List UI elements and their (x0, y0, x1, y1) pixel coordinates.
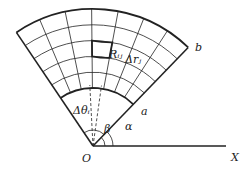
inner-radius-label: a (141, 105, 148, 118)
grid-ring (52, 72, 145, 93)
delta-theta-label: Δθᵢ (72, 104, 90, 117)
dashed-ray (90, 85, 93, 146)
outer-radius-label: b (195, 41, 202, 54)
x-axis-label: X (230, 151, 240, 164)
alpha-label: α (125, 120, 133, 133)
beta-label: β (103, 123, 110, 136)
polar-grid (16, 9, 226, 146)
dashed-ray (93, 86, 101, 146)
delta-r-label: Δrⱼ (124, 53, 141, 66)
polar-region-diagram: O X a b α β Δθᵢ Rᵢⱼ Δrⱼ (0, 0, 249, 177)
region-label: Rᵢⱼ (108, 48, 122, 61)
inner-arc (61, 88, 134, 104)
beta-angle-arc (84, 130, 104, 134)
origin-label: O (82, 152, 91, 165)
alpha-angle-arc (101, 137, 105, 146)
grid-radial (65, 12, 81, 89)
